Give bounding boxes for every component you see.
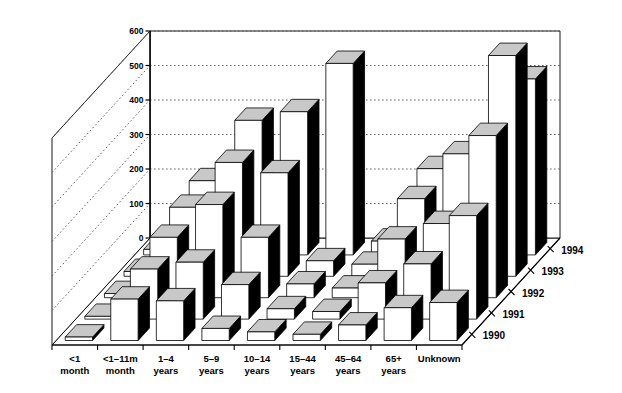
- three-d-bar-chart: 0100200300400500600 <1month<1–11mmonth1–…: [0, 0, 622, 393]
- bar-front-face: [384, 308, 411, 341]
- depth-axis-label-1991: 1991: [502, 309, 525, 320]
- bar-front-face: [247, 332, 274, 341]
- bar-front-face: [221, 285, 248, 320]
- bar-1990-cat7: [384, 295, 423, 340]
- y-tick-label: 500: [129, 61, 143, 71]
- x-category-label: years: [153, 365, 178, 376]
- bar-side-face: [496, 123, 507, 298]
- x-category-label: month: [60, 365, 89, 376]
- bar-front-face: [111, 299, 138, 340]
- bar-1990-cat2: [156, 288, 195, 340]
- bar-side-face: [308, 99, 319, 255]
- bar-1994-cat4: [326, 51, 365, 255]
- x-category-label: years: [381, 365, 406, 376]
- bar-front-face: [339, 325, 366, 341]
- x-category-label: Unknown: [418, 353, 461, 364]
- depth-axis-label-1993: 1993: [542, 266, 565, 277]
- y-tick-label: 0: [139, 233, 144, 243]
- bar-1990-cat8: [430, 290, 469, 340]
- y-tick-label: 200: [129, 164, 143, 174]
- bar-1990-cat1: [111, 287, 150, 341]
- bar-side-face: [353, 51, 364, 255]
- bar-front-face: [287, 284, 314, 298]
- x-category-label: 45–64: [335, 353, 362, 364]
- bar-side-face: [535, 67, 546, 255]
- x-category-label: 65+: [386, 353, 403, 364]
- bar-front-face: [267, 309, 294, 319]
- x-category-label: years: [199, 365, 224, 376]
- x-axis-labels: <1month<1–11mmonth1–4years5–9years10–14y…: [60, 353, 461, 376]
- bar-front-face: [202, 328, 229, 340]
- bar-front-face: [156, 301, 183, 341]
- bar-1991-cat3: [221, 272, 260, 319]
- y-tick-label: 100: [129, 199, 143, 209]
- depth-axis-label-1990: 1990: [483, 330, 506, 341]
- chart-container: 0100200300400500600 <1month<1–11mmonth1–…: [0, 0, 622, 393]
- depth-axis-label-1992: 1992: [522, 288, 545, 299]
- x-category-label: years: [245, 365, 270, 376]
- bar-side-face: [477, 203, 488, 319]
- bar-front-face: [293, 334, 320, 340]
- x-category-label: years: [290, 365, 315, 376]
- x-category-label: 1–4: [158, 353, 175, 364]
- bar-front-face: [430, 303, 457, 341]
- x-category-label: <1–11m: [103, 353, 138, 364]
- bar-front-face: [313, 312, 340, 320]
- x-category-label: 5–9: [204, 353, 220, 364]
- x-category-label: 15–44: [289, 353, 316, 364]
- y-tick-label: 600: [129, 26, 143, 36]
- x-category-label: <1: [69, 353, 81, 364]
- y-tick-label: 300: [129, 130, 143, 140]
- bar-front-face: [85, 316, 112, 319]
- x-category-label: years: [336, 365, 361, 376]
- bar-side-face: [288, 160, 299, 276]
- y-tick-label: 400: [129, 95, 143, 105]
- depth-axis-label-1994: 1994: [561, 245, 584, 256]
- bar-front-face: [326, 63, 353, 254]
- bar-side-face: [516, 43, 527, 276]
- x-category-label: 10–14: [244, 353, 271, 364]
- bar-front-face: [332, 288, 359, 298]
- bar-front-face: [65, 337, 92, 340]
- x-category-label: month: [106, 365, 135, 376]
